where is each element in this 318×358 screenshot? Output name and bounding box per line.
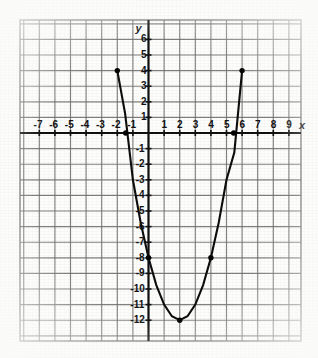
y-tick-label: 3 (141, 81, 147, 91)
y-axis-label: y (136, 23, 142, 34)
x-tick-label: 7 (255, 120, 261, 130)
x-tick-label: 5 (224, 120, 230, 130)
x-tick-label: 3 (193, 120, 199, 130)
x-tick-label: 4 (208, 120, 214, 130)
x-tick-label: 6 (240, 120, 246, 130)
x-tick-label: 2 (177, 120, 183, 130)
x-tick-label: -5 (65, 120, 74, 130)
y-tick-label: 1 (141, 112, 147, 122)
coordinate-plane (0, 0, 318, 358)
y-tick-label: 6 (141, 34, 147, 44)
y-tick-label: 4 (141, 66, 147, 76)
x-tick-label: -3 (96, 120, 105, 130)
y-tick-label: -10 (130, 284, 144, 294)
y-tick-label: 5 (141, 50, 147, 60)
graph-figure: -7-6-5-4-3-2-1123456789654321-1-2-3-4-5-… (0, 0, 318, 358)
y-tick-label: -8 (136, 253, 145, 263)
y-tick-label: -3 (136, 175, 145, 185)
y-tick-label: -1 (136, 144, 145, 154)
x-tick-label: 1 (162, 120, 168, 130)
x-tick-label: -1 (127, 120, 136, 130)
y-tick-label: -11 (130, 300, 144, 310)
x-tick-label: -2 (112, 120, 121, 130)
y-tick-label: -9 (136, 268, 145, 278)
y-tick-label: 2 (141, 97, 147, 107)
x-axis-label: x (299, 120, 305, 131)
x-tick-label: -4 (80, 120, 89, 130)
x-tick-label: -6 (49, 120, 58, 130)
y-tick-label: -5 (136, 206, 145, 216)
x-tick-label: -7 (34, 120, 43, 130)
y-tick-label: -6 (136, 222, 145, 232)
x-tick-label: 9 (286, 120, 292, 130)
x-tick-label: 8 (271, 120, 277, 130)
y-tick-label: -2 (136, 159, 145, 169)
y-tick-label: -7 (136, 237, 145, 247)
y-tick-label: -4 (136, 190, 145, 200)
y-tick-label: -12 (130, 315, 144, 325)
